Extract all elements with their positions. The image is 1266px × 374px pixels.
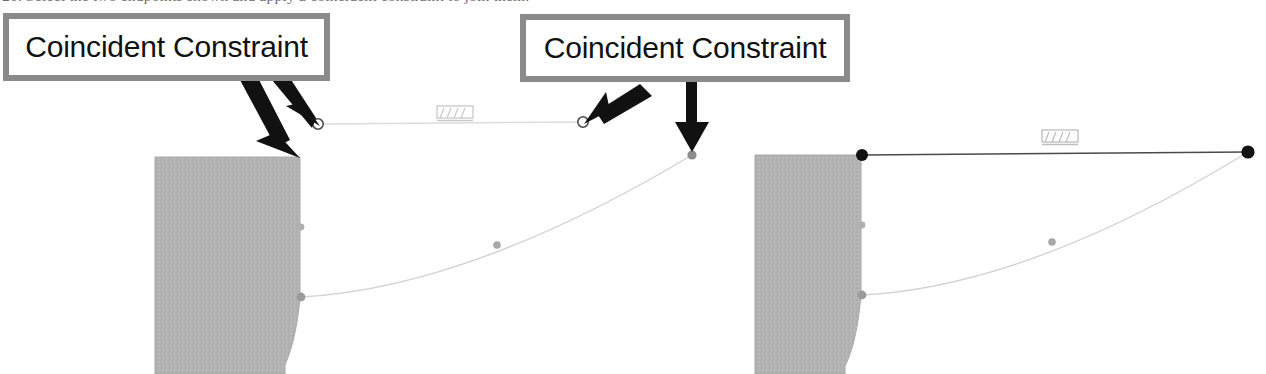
callout-box-coincident-constraint-2[interactable]: Coincident Constraint (520, 14, 850, 82)
arrow-to-curve-endpoint (675, 82, 709, 152)
cad-sketch-figure: 20. Select the two endpoints shown and a… (0, 0, 1266, 374)
arrow-to-open-endpoint (584, 84, 652, 124)
callout-box-coincident-constraint-1[interactable]: Coincident Constraint (3, 13, 330, 81)
callout-label: Coincident Constraint (544, 33, 827, 63)
callout-label: Coincident Constraint (25, 32, 308, 62)
